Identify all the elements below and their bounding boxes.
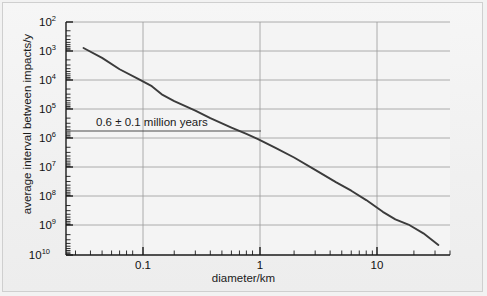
y-axis-title: average interval between impacts/y	[21, 24, 33, 224]
ytick-label-1e10: 1010	[10, 249, 50, 261]
x-axis-title: diameter/km	[0, 272, 487, 284]
plot-canvas	[0, 0, 487, 296]
xtick-label-10: 10	[357, 259, 397, 271]
interval-annotation-label: 0.6 ± 0.1 million years	[96, 116, 208, 128]
chart-figure: 102 103 104 105 106 107 108 109 1010 0.1…	[0, 0, 487, 296]
xtick-label-0p1: 0.1	[123, 259, 163, 271]
xtick-label-1: 1	[240, 259, 280, 271]
